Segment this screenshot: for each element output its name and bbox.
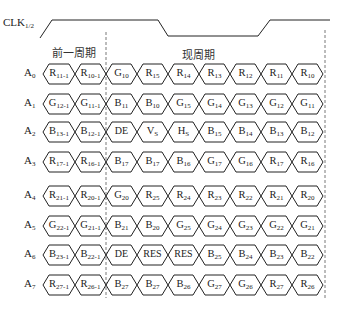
bus-cell-label: HS <box>169 125 199 140</box>
bus-cell-label: G17 <box>200 155 230 170</box>
bus-cell-label: G24 <box>200 219 230 234</box>
bus-cell-label: G12-1 <box>44 97 74 112</box>
row-label: A3 <box>24 154 35 168</box>
row-label: A5 <box>24 218 35 232</box>
bus-cell-label: R11-1 <box>44 67 74 82</box>
bus-cell-label: G21-1 <box>76 219 106 234</box>
bus-cell-label: R17-1 <box>44 155 74 170</box>
bus-cell-label: B23-1 <box>44 248 74 263</box>
bus-cell-label: B14 <box>231 125 261 140</box>
bus-cell-label: G20 <box>107 189 137 204</box>
bus-cell-label: R24 <box>169 189 199 204</box>
row-label: A1 <box>24 96 35 110</box>
bus-cell-label: R21 <box>262 189 292 204</box>
bus-cell-label: R16-1 <box>76 155 106 170</box>
bus-cell-label: G21 <box>293 219 323 234</box>
bus-cell-label: B13-1 <box>44 125 74 140</box>
bus-cell-label: B26 <box>169 278 199 293</box>
bus-cell-label: G27 <box>200 278 230 293</box>
bus-cell-label: R17 <box>262 155 292 170</box>
bus-cell-label: G14 <box>200 97 230 112</box>
bus-cell-label: G11-1 <box>76 97 106 112</box>
bus-cell-label: B13 <box>262 125 292 140</box>
bus-cell-label: R15 <box>138 67 168 82</box>
bus-cell-label: B21 <box>107 219 137 234</box>
bus-cell-label: G16 <box>231 155 261 170</box>
bus-cell-label: B27 <box>107 278 137 293</box>
bus-cell-label: RES <box>169 248 199 260</box>
bus-cell-label: B11 <box>107 97 137 112</box>
bus-cell-label: B24 <box>231 248 261 263</box>
bus-cell-label: R25 <box>138 189 168 204</box>
row-label: A2 <box>24 124 35 138</box>
bus-cell-label: DE <box>107 248 137 260</box>
bus-cell-label: R26 <box>293 278 323 293</box>
bus-cell-label: VS <box>138 125 168 140</box>
row-label: A0 <box>24 66 35 80</box>
bus-cell-label: B20 <box>138 219 168 234</box>
bus-cell-label: B25 <box>200 248 230 263</box>
bus-cell-label: B17 <box>138 155 168 170</box>
bus-cell-label: G26 <box>231 278 261 293</box>
bus-cell-label: R27 <box>262 278 292 293</box>
bus-cell-label: B23 <box>262 248 292 263</box>
bus-cell-label: G15 <box>169 97 199 112</box>
bus-cell-label: R13 <box>200 67 230 82</box>
bus-cell-label: G22 <box>262 219 292 234</box>
bus-cell-label: DE <box>107 125 137 137</box>
bus-cell-label: G13 <box>231 97 261 112</box>
bus-cell-label: G12 <box>262 97 292 112</box>
bus-cell-label: B10 <box>138 97 168 112</box>
bus-cell-label: G10 <box>107 67 137 82</box>
bus-cell-label: R12 <box>231 67 261 82</box>
bus-cell-label: R22 <box>231 189 261 204</box>
clock-label: CLK1/2 <box>3 16 34 30</box>
previous-period-label: 前一周期 <box>52 44 96 60</box>
bus-cell-label: G25 <box>169 219 199 234</box>
bus-cell-label: B22-1 <box>76 248 106 263</box>
bus-cell-label: G22-1 <box>44 219 74 234</box>
current-period-label: 现周期 <box>182 46 215 62</box>
bus-cell-label: R11 <box>262 67 292 82</box>
bus-cell-label: B17 <box>107 155 137 170</box>
bus-cell-label: R14 <box>169 67 199 82</box>
bus-cell-label: G23 <box>231 219 261 234</box>
bus-cell-label: RES <box>138 248 168 260</box>
bus-cell-label: B22 <box>293 248 323 263</box>
bus-cell-label: R10 <box>293 67 323 82</box>
bus-cell-label: B16 <box>169 155 199 170</box>
row-label: A4 <box>24 188 35 202</box>
clock-waveform <box>40 20 330 38</box>
bus-cell-label: B12 <box>293 125 323 140</box>
bus-cell-label: B27 <box>138 278 168 293</box>
bus-cell-label: B12-1 <box>76 125 106 140</box>
bus-cell-label: R23 <box>200 189 230 204</box>
bus-cell-label: B15 <box>200 125 230 140</box>
bus-cell-label: R10-1 <box>76 67 106 82</box>
bus-cell-label: R16 <box>293 155 323 170</box>
bus-cell-label: R26-1 <box>76 278 106 293</box>
row-label: A7 <box>24 277 35 291</box>
bus-cell-label: R21-1 <box>44 189 74 204</box>
bus-cell-label: R20-1 <box>76 189 106 204</box>
bus-cell-label: G11 <box>293 97 323 112</box>
bus-cell-label: R27-1 <box>44 278 74 293</box>
row-label: A6 <box>24 247 35 261</box>
bus-cell-label: R20 <box>293 189 323 204</box>
